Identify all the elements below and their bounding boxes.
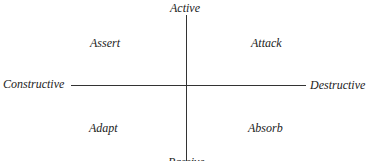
axis-label-left: Constructive bbox=[3, 78, 64, 90]
axis-label-bottom: Passive bbox=[168, 156, 205, 161]
quadrant-top-right: Attack bbox=[251, 37, 282, 49]
axis-label-right: Destructive bbox=[310, 79, 365, 91]
quadrant-top-left: Assert bbox=[90, 37, 120, 49]
quadrant-bottom-right: Absorb bbox=[248, 122, 283, 134]
axis-label-top: Active bbox=[170, 2, 200, 14]
vertical-axis bbox=[186, 15, 187, 161]
horizontal-axis bbox=[71, 85, 306, 86]
quadrant-bottom-left: Adapt bbox=[89, 122, 118, 134]
